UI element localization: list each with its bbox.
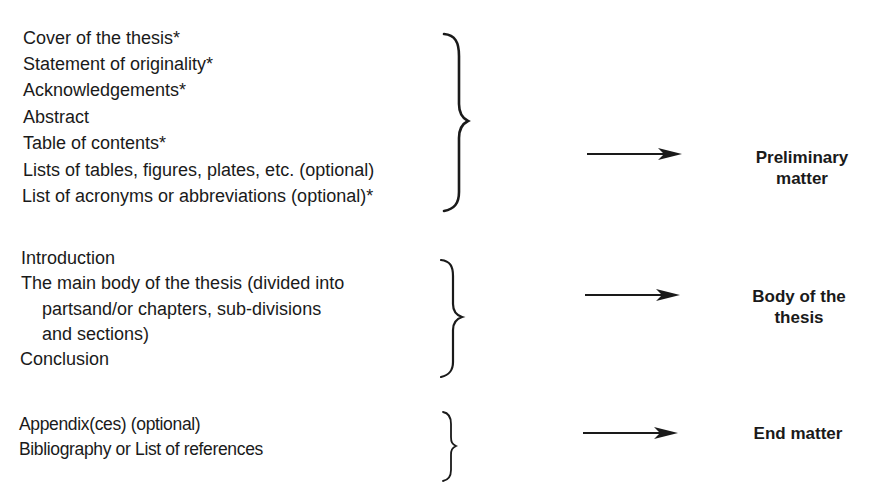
- arrow-right-icon: [585, 289, 680, 301]
- curly-brace-icon: [443, 412, 456, 481]
- curly-brace-icon: [441, 260, 462, 377]
- arrow-right-icon: [583, 427, 678, 439]
- arrow-right-icon: [587, 148, 682, 160]
- connectors: [0, 0, 883, 504]
- curly-brace-icon: [444, 34, 468, 211]
